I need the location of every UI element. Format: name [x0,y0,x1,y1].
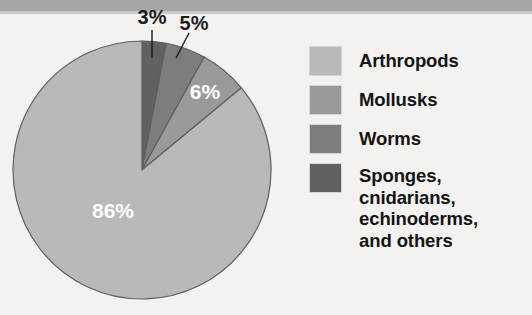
legend-label-arthropods: Arthropods [359,46,459,72]
legend-item-sponges-and-others[interactable]: Sponges, cnidarians, echinoderms, and ot… [309,163,524,251]
legend-swatch-arthropods [309,46,342,76]
legend-swatch-worms [309,124,342,154]
legend: Arthropods Mollusks Worms Sponges, cnida… [309,46,524,260]
legend-item-arthropods[interactable]: Arthropods [309,46,524,76]
legend-item-worms[interactable]: Worms [309,124,524,154]
slice-label-3-percent: 3% [138,6,167,28]
pie-chart-svg: 3% 5% 6% 86% [0,0,300,315]
legend-swatch-sponges-and-others [309,163,342,193]
slice-label-6-percent: 6% [190,80,221,103]
legend-swatch-mollusks [309,85,342,115]
slice-label-5-percent: 5% [180,12,209,34]
legend-label-sponges-and-others: Sponges, cnidarians, echinoderms, and ot… [359,163,478,251]
pie-slices-group [13,41,271,299]
legend-item-mollusks[interactable]: Mollusks [309,85,524,115]
pie-chart: 3% 5% 6% 86% [0,0,300,315]
pie-chart-figure: 3% 5% 6% 86% Arthropods Mollusks Worms S… [0,0,532,315]
slice-label-86-percent: 86% [92,199,134,222]
legend-label-mollusks: Mollusks [359,85,437,111]
legend-label-worms: Worms [359,124,421,150]
